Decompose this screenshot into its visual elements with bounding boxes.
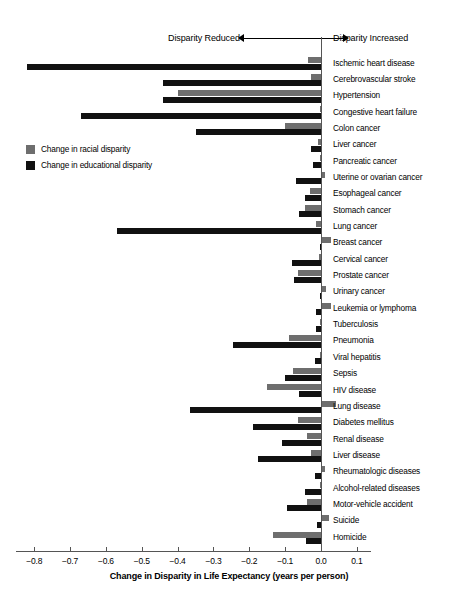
x-axis-line (16, 551, 371, 552)
category-label: Liver cancer (333, 139, 376, 149)
chart-row: Diabetes mellitus (0, 416, 458, 432)
chart-row: Liver cancer (0, 138, 458, 154)
chart-row: Esophageal cancer (0, 187, 458, 203)
chart-row: Pancreatic cancer (0, 154, 458, 170)
category-label: Lung disease (333, 401, 381, 411)
category-label: Diabetes mellitus (333, 417, 394, 427)
chart-row: Homicide (0, 530, 458, 546)
chart-root: Disparity Reduced Disparity Increased Ch… (0, 0, 458, 609)
bar-racial (298, 417, 321, 423)
x-axis-tick (321, 547, 322, 551)
bar-educational (294, 277, 321, 283)
bar-educational (190, 407, 321, 413)
category-label: Sepsis (333, 368, 357, 378)
x-axis-tick-label: −0.8 (14, 556, 54, 566)
category-label: Liver disease (333, 450, 380, 460)
x-axis-tick (285, 547, 286, 551)
bar-educational (306, 538, 321, 544)
bar-racial (289, 335, 321, 341)
chart-row: Viral hepatitis (0, 350, 458, 366)
bar-educational (163, 97, 321, 103)
chart-row: Leukemia or lymphoma (0, 301, 458, 317)
chart-row: Alcohol-related diseases (0, 481, 458, 497)
category-label: Urinary cancer (333, 286, 385, 296)
bar-racial (293, 368, 321, 374)
bar-educational (285, 375, 321, 381)
bar-educational (27, 64, 321, 70)
category-label: Cerebrovascular stroke (333, 74, 415, 84)
chart-row: Colon cancer (0, 121, 458, 137)
x-axis-tick-label: −0.3 (193, 556, 233, 566)
category-label: Uterine or ovarian cancer (333, 172, 422, 182)
x-axis-tick-label: −0.2 (229, 556, 269, 566)
chart-row: Motor-vehicle accident (0, 497, 458, 513)
chart-row: Liver disease (0, 448, 458, 464)
x-axis-tick (70, 547, 71, 551)
category-label: Pancreatic cancer (333, 156, 397, 166)
x-axis-tick (142, 547, 143, 551)
x-axis-tick (213, 547, 214, 551)
category-label: Hypertension (333, 90, 380, 100)
category-label: Cervical cancer (333, 254, 388, 264)
bar-racial (321, 515, 329, 521)
x-axis-tick-label: −0.1 (265, 556, 305, 566)
bar-racial (307, 433, 321, 439)
x-axis-title: Change in Disparity in Life Expectancy (… (0, 571, 458, 581)
bar-educational (163, 80, 321, 86)
bar-racial (305, 205, 321, 211)
x-axis-tick-label: −0.5 (122, 556, 162, 566)
chart-row: Lung cancer (0, 220, 458, 236)
bar-racial (321, 237, 331, 243)
x-axis-tick (249, 547, 250, 551)
bar-racial (298, 270, 321, 276)
category-label: Renal disease (333, 434, 384, 444)
bar-educational (117, 228, 321, 234)
x-axis-tick (106, 547, 107, 551)
category-label: Homicide (333, 532, 366, 542)
category-label: Suicide (333, 515, 359, 525)
bar-educational (305, 489, 321, 495)
bar-educational (296, 178, 321, 184)
chart-row: Uterine or ovarian cancer (0, 170, 458, 186)
chart-row: Urinary cancer (0, 285, 458, 301)
plot-area: Ischemic heart diseaseCerebrovascular st… (0, 0, 458, 609)
zero-reference-line (321, 37, 322, 551)
bar-racial (310, 188, 321, 194)
category-label: Rheumatologic diseases (333, 466, 420, 476)
x-axis-tick-label: −0.4 (158, 556, 198, 566)
chart-row: Sepsis (0, 367, 458, 383)
x-axis-tick-label: 0.1 (337, 556, 377, 566)
chart-row: Breast cancer (0, 236, 458, 252)
chart-row: Hypertension (0, 89, 458, 105)
bar-racial (285, 123, 321, 129)
x-axis-tick (357, 547, 358, 551)
category-label: Colon cancer (333, 123, 380, 133)
bar-educational (305, 195, 321, 201)
bar-racial (273, 532, 321, 538)
x-axis-tick-label: −0.7 (50, 556, 90, 566)
category-label: Congestive heart failure (333, 107, 417, 117)
bar-racial (308, 57, 321, 63)
chart-row: Stomach cancer (0, 203, 458, 219)
bar-racial (307, 499, 321, 505)
x-axis-tick-label: −0.6 (86, 556, 126, 566)
category-label: Lung cancer (333, 221, 377, 231)
category-label: Esophageal cancer (333, 188, 401, 198)
category-label: Tuberculosis (333, 319, 378, 329)
chart-row: Prostate cancer (0, 269, 458, 285)
bar-educational (196, 129, 321, 135)
bar-racial (267, 384, 321, 390)
category-label: Motor-vehicle accident (333, 499, 413, 509)
bar-educational (233, 342, 321, 348)
bar-educational (253, 424, 321, 430)
bar-racial (311, 450, 321, 456)
chart-row: Pneumonia (0, 334, 458, 350)
bar-educational (313, 162, 321, 168)
bar-racial (311, 74, 321, 80)
bar-racial (321, 303, 331, 309)
category-label: Leukemia or lymphoma (333, 303, 416, 313)
category-label: Ischemic heart disease (333, 58, 415, 68)
chart-row: HIV disease (0, 383, 458, 399)
x-axis-tick (178, 547, 179, 551)
category-label: Stomach cancer (333, 205, 391, 215)
